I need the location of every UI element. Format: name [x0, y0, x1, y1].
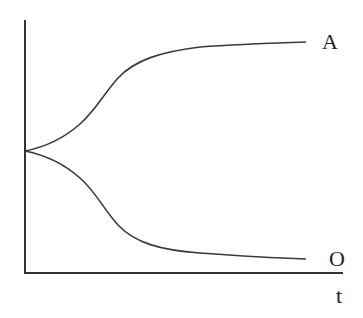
chart-canvas: [0, 0, 363, 318]
x-axis-label: t: [336, 285, 342, 307]
series-o-label: O: [329, 248, 345, 270]
curve-o: [25, 151, 306, 259]
curve-a: [25, 42, 306, 151]
series-a-label: A: [322, 31, 338, 53]
